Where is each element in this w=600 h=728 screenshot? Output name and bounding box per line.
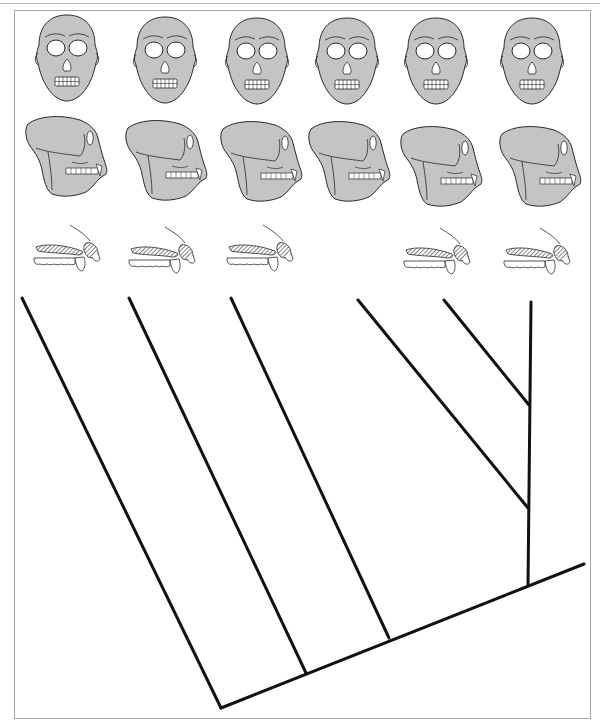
tree-branch-1 <box>22 298 221 708</box>
phylogenetic-tree <box>22 298 584 708</box>
tree-branch-3 <box>231 298 389 638</box>
frontal-skull-6 <box>500 18 563 104</box>
dental-profile-3 <box>227 225 293 271</box>
tree-stem <box>528 302 531 586</box>
lateral-skull-4 <box>309 122 390 202</box>
dental-profile-2 <box>129 227 195 273</box>
frontal-skull-2 <box>133 17 196 103</box>
frontal-skull-row <box>35 15 563 104</box>
lateral-skull-5 <box>401 127 482 207</box>
tree-branch-2 <box>129 298 306 673</box>
dental-profile-5 <box>404 228 470 274</box>
frontal-skull-3 <box>225 18 288 104</box>
dental-profile-6 <box>504 228 570 274</box>
lateral-skull-1 <box>26 117 107 197</box>
lateral-skull-2 <box>126 121 207 201</box>
frontal-skull-4 <box>315 18 378 104</box>
lateral-skull-row <box>26 117 581 207</box>
tree-base <box>221 564 584 708</box>
lateral-skull-3 <box>221 122 302 202</box>
tree-branch-5 <box>444 300 529 405</box>
frontal-skull-5 <box>404 18 467 104</box>
tree-branch-4 <box>358 300 528 508</box>
dental-profile-row <box>34 225 570 274</box>
dental-profile-1 <box>34 225 100 271</box>
lateral-skull-6 <box>500 127 581 207</box>
cladogram-figure <box>0 0 600 728</box>
frontal-skull-1 <box>35 15 98 101</box>
